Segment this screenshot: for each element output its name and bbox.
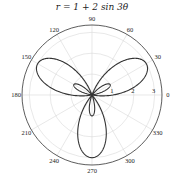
radial-tick-label: 3 — [152, 87, 155, 94]
radial-tick-label: 1 — [110, 87, 113, 94]
polar-chart: r = 1 + 2 sin 3θ 03060901201501802102402… — [0, 0, 170, 178]
angle-tick-label: 240 — [49, 157, 59, 164]
radial-tick-label: 2 — [131, 87, 134, 94]
angle-tick-label: 0 — [166, 91, 169, 98]
angular-gridline — [31, 60, 92, 95]
angle-tick-label: 30 — [154, 53, 161, 60]
angular-gridline — [92, 95, 127, 156]
angle-tick-label: 150 — [21, 53, 31, 60]
angle-tick-label: 270 — [87, 167, 97, 174]
angular-gridline — [31, 95, 92, 130]
angle-tick-label: 330 — [153, 129, 163, 136]
angular-gridline — [92, 60, 153, 95]
angular-gridline — [92, 95, 153, 130]
angle-tick-label: 180 — [11, 91, 21, 98]
chart-title: r = 1 + 2 sin 3θ — [56, 2, 129, 12]
angle-tick-label: 300 — [125, 157, 135, 164]
radial-tick-labels: 123 — [110, 87, 155, 94]
angle-tick-label: 90 — [89, 15, 96, 22]
angular-gridline — [92, 34, 127, 95]
angle-tick-label: 120 — [49, 26, 59, 33]
angle-tick-label: 210 — [21, 129, 31, 136]
angular-gridline — [57, 95, 92, 156]
angle-tick-label: 60 — [127, 26, 134, 33]
angular-gridline — [57, 34, 92, 95]
